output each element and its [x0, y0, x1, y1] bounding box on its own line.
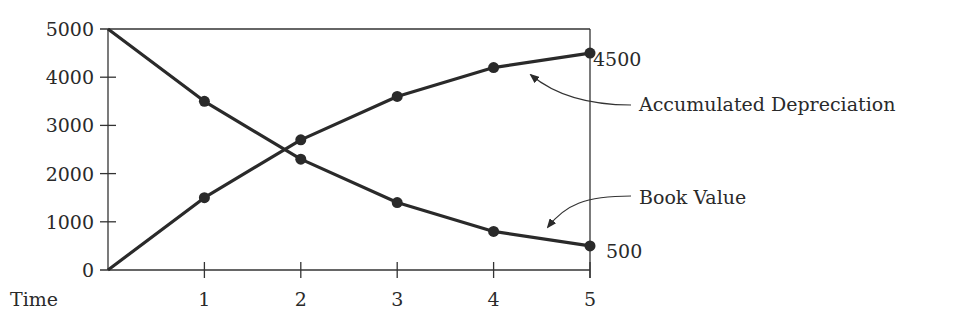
accumulated-depreciation-end-label: 4500: [593, 48, 641, 70]
x-axis-label: Time: [10, 288, 58, 310]
y-tick-label: 0: [82, 259, 94, 281]
book-value-annotation: Book Value: [639, 186, 746, 208]
book-value-point: [585, 240, 596, 251]
depreciation-chart: 010002000300040005000 12345 Time 500 450…: [0, 0, 962, 331]
x-tick-label: 2: [295, 288, 307, 310]
accumulated-depreciation-annotation: Accumulated Depreciation: [638, 93, 895, 115]
y-tick-label: 4000: [46, 66, 94, 88]
y-axis: 010002000300040005000: [46, 18, 116, 281]
x-tick-label: 3: [391, 288, 403, 310]
x-axis-ticks: 12345: [198, 262, 596, 310]
plot-frame: [100, 29, 590, 278]
accumulated-depreciation-point: [392, 91, 403, 102]
accumulated-depreciation-point: [199, 192, 210, 203]
y-tick-label: 2000: [46, 163, 94, 185]
x-tick-label: 1: [198, 288, 210, 310]
book-value-point: [392, 197, 403, 208]
series-layer: [108, 29, 596, 270]
accumulated-depreciation-point: [295, 134, 306, 145]
book-value-point: [295, 154, 306, 165]
x-tick-label: 4: [488, 288, 500, 310]
x-tick-label: 5: [584, 288, 596, 310]
y-tick-label: 3000: [46, 114, 94, 136]
book-value-point: [199, 96, 210, 107]
accumulated-depreciation-arrow-icon: [531, 75, 631, 105]
y-tick-label: 5000: [46, 18, 94, 40]
accumulated-depreciation-point: [488, 62, 499, 73]
book-value-end-label: 500: [606, 240, 642, 262]
book-value-point: [488, 226, 499, 237]
book-value-line: [108, 29, 590, 246]
y-tick-label: 1000: [46, 211, 94, 233]
accumulated-depreciation-line: [108, 53, 590, 270]
